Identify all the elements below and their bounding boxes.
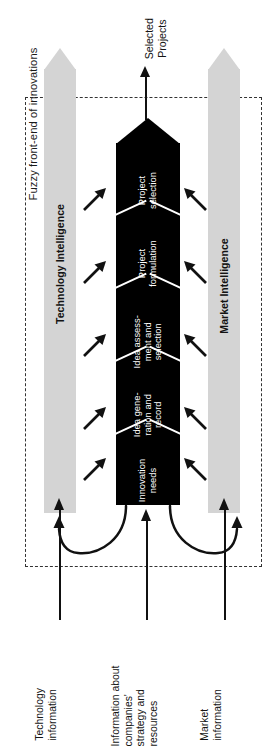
feeder-arrow-icon-right-5 [182,456,208,482]
pillar-market-intelligence: Market Intelligence [208,48,240,513]
feeder-arrow-icon-right-3 [182,332,208,358]
pillar-technology-intelligence: Technology Intelligence [44,48,76,513]
feeder-arrow-icon-left-1 [82,186,108,212]
input-label-technology-information: Technology information [34,591,59,741]
input-label-company-strategy: Information about companies' strategy an… [110,596,161,746]
feeder-arrow-icon-left-3 [82,332,108,358]
pillar-arrowhead-icon [44,48,76,70]
output-label: Selected Projects [143,0,168,99]
feeder-arrow-icon-right-2 [182,259,208,285]
feeder-arrow-icon-right-4 [182,405,208,431]
feeder-arrow-icon-left-5 [82,456,108,482]
feeder-arrow-icon-left-4 [82,405,108,431]
pillar-market-intelligence-label: Market Intelligence [218,186,230,386]
curved-connector-to-market-pillar [164,503,244,559]
feeder-arrow-icon-left-2 [82,259,108,285]
fuzzy-front-end-label: Fuzzy front-end of innovations [27,29,39,219]
feeder-arrow-icon-right-1 [182,186,208,212]
input-label-market-information: Market information [199,591,224,741]
pillar-arrowhead-icon [208,48,240,70]
innovation-process-arrow: Project selection Project formulation Id… [116,118,180,505]
pillar-technology-intelligence-label: Technology Intelligence [54,164,66,364]
